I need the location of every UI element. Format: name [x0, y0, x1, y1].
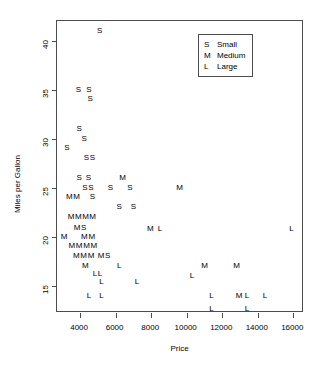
x-tick: [293, 313, 294, 318]
x-tick-label: 16000: [281, 324, 303, 332]
data-point-s: S: [86, 86, 91, 94]
y-tick-label: 25: [42, 187, 50, 196]
x-tick: [222, 313, 223, 318]
y-tick-label: 35: [42, 89, 50, 98]
data-point-m: M: [89, 213, 96, 221]
y-tick: [52, 90, 57, 91]
x-tick: [80, 313, 81, 318]
legend-label-small: Small: [217, 41, 237, 49]
data-point-s: S: [108, 184, 113, 192]
data-point-m: M S: [74, 224, 87, 232]
y-tick: [52, 41, 57, 42]
legend-key-medium: M: [204, 52, 217, 60]
scatter-plot-figure: SSSSSSSS SSSMS SSSMMMSSSM M MMM SMM MMLL…: [0, 0, 321, 367]
data-point-s: S: [90, 193, 95, 201]
data-point-s: S: [86, 174, 91, 182]
data-point-m: M: [82, 262, 89, 270]
x-tick: [187, 313, 188, 318]
y-axis-title: Miles per Gallon: [14, 155, 22, 213]
data-point-s: S: [127, 184, 132, 192]
data-point-s: S: [117, 203, 122, 211]
data-point-m: M: [233, 262, 240, 270]
x-tick-label: 14000: [246, 324, 268, 332]
data-point-s: S: [76, 86, 81, 94]
data-point-l: L: [209, 305, 213, 311]
data-point-l: L: [245, 292, 249, 300]
data-point-s: S: [97, 27, 102, 35]
legend-key-large: L: [204, 63, 217, 71]
y-tick-label: 15: [42, 285, 50, 294]
x-tick-label: 12000: [210, 324, 232, 332]
data-point-l: L: [135, 278, 139, 286]
plot-data-area: SSSSSSSS SSSMS SSSMMMSSSM M MMM SMM MMLL…: [57, 21, 302, 311]
data-point-m: M M M: [68, 213, 89, 221]
data-point-m: M M M M: [68, 242, 97, 250]
y-tick: [52, 237, 57, 238]
data-point-l: L: [245, 305, 249, 311]
x-axis-title: Price: [56, 345, 303, 353]
x-tick-label: 8000: [141, 324, 159, 332]
data-point-m: M: [201, 262, 208, 270]
y-tick-label: 40: [42, 40, 50, 49]
legend-item: S Small: [204, 39, 245, 50]
data-point-m: M: [176, 184, 183, 192]
data-point-m: M: [236, 292, 243, 300]
data-point-s: S: [82, 135, 87, 143]
x-tick-label: 10000: [175, 324, 197, 332]
data-point-l: L: [158, 225, 162, 233]
data-point-l: L: [99, 278, 103, 286]
data-point-m: M M M: [73, 252, 94, 260]
y-tick-label: 20: [42, 236, 50, 245]
data-point-s: S S: [82, 184, 93, 192]
data-point-m: M: [119, 174, 126, 182]
data-point-l: L: [209, 292, 213, 300]
data-point-l: L: [289, 225, 293, 233]
data-point-l: L: [87, 292, 91, 300]
y-tick-label: 30: [42, 138, 50, 147]
y-tick: [52, 188, 57, 189]
legend-item: M Medium: [204, 50, 245, 61]
x-tick: [116, 313, 117, 318]
y-tick: [52, 286, 57, 287]
data-point-s: S: [87, 95, 92, 103]
legend-item: L Large: [204, 61, 245, 72]
x-tick-label: 4000: [70, 324, 88, 332]
x-tick: [151, 313, 152, 318]
legend-box: S Small M Medium L Large: [198, 34, 253, 77]
data-point-s: S: [77, 174, 82, 182]
legend-label-large: Large: [217, 63, 237, 71]
data-point-l: L: [99, 292, 103, 300]
legend-key-small: S: [204, 41, 217, 49]
x-tick-label: 6000: [106, 324, 124, 332]
data-point-m: M S: [98, 252, 111, 260]
y-tick: [52, 139, 57, 140]
data-point-m: M: [66, 193, 73, 201]
data-point-l: L: [263, 292, 267, 300]
data-point-l: L: [190, 272, 194, 280]
x-tick: [258, 313, 259, 318]
data-point-m: M: [61, 233, 68, 241]
data-point-s: S: [64, 144, 69, 152]
data-point-m: M M: [81, 233, 95, 241]
legend-label-medium: Medium: [217, 52, 245, 60]
data-point-s: S: [131, 203, 136, 211]
data-point-l: L: [117, 262, 121, 270]
data-point-s: S S: [84, 154, 95, 162]
data-point-m: M: [73, 193, 80, 201]
data-point-s: S: [77, 125, 82, 133]
data-point-m: M: [147, 225, 154, 233]
plot-frame: SSSSSSSS SSSMS SSSMMMSSSM M MMM SMM MMLL…: [56, 20, 303, 312]
